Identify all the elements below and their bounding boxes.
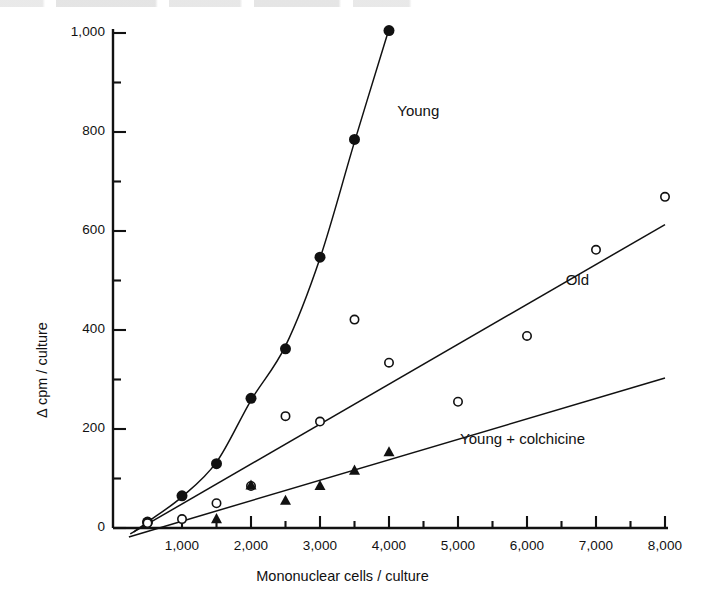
point-old bbox=[454, 398, 462, 406]
plot-canvas bbox=[0, 0, 705, 605]
point-young bbox=[384, 25, 395, 36]
figure-scatter-plot: 1,0002,0003,0004,0005,0006,0007,0008,000… bbox=[0, 0, 705, 605]
y-tick-label: 0 bbox=[51, 519, 105, 534]
point-young-colchicine bbox=[384, 446, 395, 456]
point-young-colchicine bbox=[280, 495, 291, 505]
point-young bbox=[315, 252, 326, 263]
point-young bbox=[280, 343, 291, 354]
y-tick-label: 800 bbox=[51, 123, 105, 138]
y-axis-title: Δ cpm / culture bbox=[34, 322, 50, 418]
point-young bbox=[177, 490, 188, 501]
point-young bbox=[211, 458, 222, 469]
y-tick-label: 400 bbox=[51, 321, 105, 336]
x-tick-label: 1,000 bbox=[158, 538, 206, 553]
point-old bbox=[385, 358, 393, 366]
data-points bbox=[142, 25, 669, 528]
y-tick-label: 200 bbox=[51, 420, 105, 435]
x-tick-label: 6,000 bbox=[503, 538, 551, 553]
point-young bbox=[246, 393, 257, 404]
x-axis-title: Mononuclear cells / culture bbox=[0, 568, 685, 584]
x-tick-label: 8,000 bbox=[641, 538, 689, 553]
point-old bbox=[178, 515, 186, 523]
y-tick-label: 1,000 bbox=[51, 24, 105, 39]
fit-line-young-colchicine bbox=[129, 378, 665, 537]
point-old bbox=[212, 499, 220, 507]
point-old bbox=[143, 519, 151, 527]
x-tick-label: 7,000 bbox=[572, 538, 620, 553]
fit-curve-young bbox=[134, 29, 389, 532]
point-old bbox=[523, 332, 531, 340]
x-tick-label: 5,000 bbox=[434, 538, 482, 553]
x-tick-label: 2,000 bbox=[227, 538, 275, 553]
point-old bbox=[661, 193, 669, 201]
point-old bbox=[350, 315, 358, 323]
y-tick-label: 600 bbox=[51, 222, 105, 237]
x-tick-label: 4,000 bbox=[365, 538, 413, 553]
x-tick-label: 3,000 bbox=[296, 538, 344, 553]
point-old bbox=[316, 417, 324, 425]
point-young-colchicine bbox=[211, 513, 222, 523]
point-young bbox=[349, 134, 360, 145]
series-label: Young + colchicine bbox=[460, 430, 585, 447]
series-label: Old bbox=[566, 271, 589, 288]
series-label: Young bbox=[397, 102, 439, 119]
point-old bbox=[281, 412, 289, 420]
point-old bbox=[592, 246, 600, 254]
